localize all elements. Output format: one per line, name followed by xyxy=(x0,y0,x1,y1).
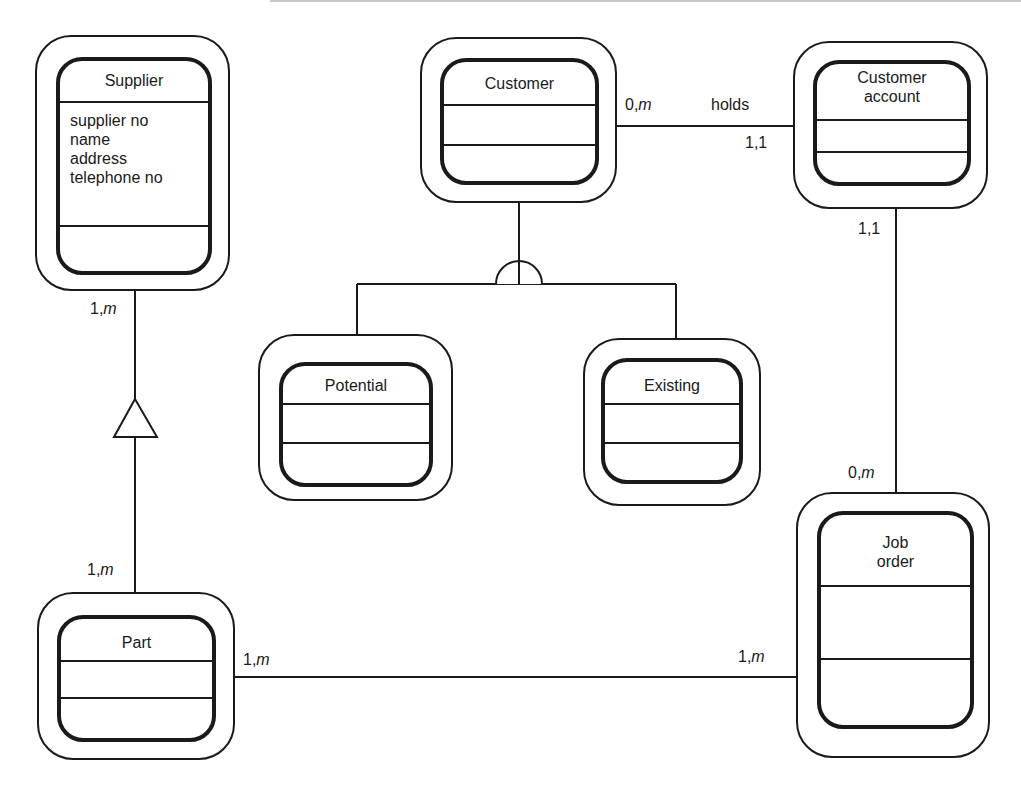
entity-job-order-inner: Job order xyxy=(817,511,974,729)
cardinality-customer-holds: 0,m xyxy=(625,96,652,114)
operations-divider xyxy=(821,658,970,660)
header-divider xyxy=(605,403,739,405)
attribute: supplier no xyxy=(70,111,163,130)
cardinality-account-holds: 1,1 xyxy=(745,134,767,152)
header-divider xyxy=(821,585,970,587)
entity-potential[interactable]: Potential xyxy=(258,334,453,501)
entity-supplier[interactable]: Supplier supplier no name address teleph… xyxy=(35,35,230,291)
entity-customer-account-inner: Customer account xyxy=(813,60,971,186)
entity-name: Supplier xyxy=(60,71,208,90)
entity-customer-inner: Customer xyxy=(440,58,599,185)
cardinality-part-job: 1,m xyxy=(243,651,270,669)
entity-name: Customer xyxy=(444,74,595,93)
entity-name: Customer account xyxy=(817,68,967,106)
entity-name: Potential xyxy=(283,376,429,395)
cardinality-supplier-part: 1,m xyxy=(90,300,117,318)
attribute: telephone no xyxy=(70,168,163,187)
header-divider xyxy=(61,660,212,662)
entity-existing[interactable]: Existing xyxy=(583,338,761,506)
cardinality-job-part: 1,m xyxy=(738,648,765,666)
operations-divider xyxy=(60,225,208,227)
entity-existing-inner: Existing xyxy=(601,358,743,484)
entity-name: Existing xyxy=(605,376,739,395)
operations-divider xyxy=(605,442,739,444)
entity-name: Part xyxy=(61,633,212,652)
cardinality-job-account: 0,m xyxy=(848,464,875,482)
relationship-name-holds: holds xyxy=(711,96,749,114)
header-divider xyxy=(60,101,208,103)
operations-divider xyxy=(283,442,429,444)
header-divider xyxy=(283,403,429,405)
cardinality-part-supplier: 1,m xyxy=(87,561,114,579)
entity-part-inner: Part xyxy=(57,615,216,742)
header-divider xyxy=(444,104,595,106)
operations-divider xyxy=(817,151,967,153)
entity-customer[interactable]: Customer xyxy=(420,37,617,203)
attribute: name xyxy=(70,130,163,149)
entity-potential-inner: Potential xyxy=(279,362,433,487)
entity-part[interactable]: Part xyxy=(37,592,235,760)
attribute-list: supplier no name address telephone no xyxy=(70,111,163,187)
operations-divider xyxy=(444,144,595,146)
entity-job-order[interactable]: Job order xyxy=(796,492,990,758)
entity-customer-account[interactable]: Customer account xyxy=(793,41,988,209)
entity-name: Job order xyxy=(821,533,970,571)
operations-divider xyxy=(61,697,212,699)
cardinality-account-job: 1,1 xyxy=(858,220,880,238)
entity-supplier-inner: Supplier supplier no name address teleph… xyxy=(56,57,212,275)
header-divider xyxy=(817,119,967,121)
attribute: address xyxy=(70,149,163,168)
triangle-icon xyxy=(114,399,157,437)
